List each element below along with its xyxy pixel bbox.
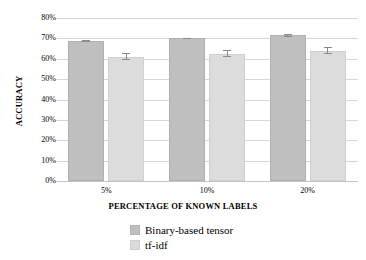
chart-legend: Binary-based tensortf-idf	[130, 222, 233, 252]
legend-color-swatch	[130, 240, 140, 250]
y-axis-tick-label: 20%	[10, 136, 56, 144]
axis-baseline	[56, 181, 358, 182]
x-axis-tick-label: 5%	[56, 186, 157, 195]
x-axis-title: PERCENTAGE OF KNOWN LABELS	[0, 201, 366, 211]
y-axis-tick-label: 50%	[10, 75, 56, 83]
y-axis-tick-label: 60%	[10, 55, 56, 63]
x-axis-tick-label: 20%	[257, 186, 358, 195]
legend-item: tf-idf	[130, 237, 233, 252]
legend-label: Binary-based tensor	[145, 224, 233, 236]
bar	[108, 57, 144, 181]
y-axis-tick-label: 80%	[10, 14, 56, 22]
plot-area	[56, 18, 358, 181]
bar	[68, 41, 104, 181]
x-axis-tick-label: 10%	[157, 186, 258, 195]
gridline	[56, 38, 358, 39]
bar	[169, 38, 205, 181]
y-axis-tick-label: 10%	[10, 157, 56, 165]
error-bar-cap-top	[324, 47, 332, 48]
bar	[209, 54, 245, 181]
bar	[270, 35, 306, 181]
accuracy-bar-chart: ACCURACY 0%10%20%30%40%50%60%70%80% 5%10…	[0, 0, 366, 260]
legend-item: Binary-based tensor	[130, 222, 233, 237]
gridline	[56, 18, 358, 19]
y-axis-tick-label: 70%	[10, 34, 56, 42]
y-axis-tick-label: 0%	[10, 177, 56, 185]
y-axis-tick-label: 40%	[10, 96, 56, 104]
y-axis-tick-label: 30%	[10, 116, 56, 124]
legend-color-swatch	[130, 225, 140, 235]
bar	[310, 51, 346, 181]
error-bar-cap-top	[122, 53, 130, 54]
error-bar-cap-top	[223, 50, 231, 51]
legend-label: tf-idf	[145, 239, 168, 251]
